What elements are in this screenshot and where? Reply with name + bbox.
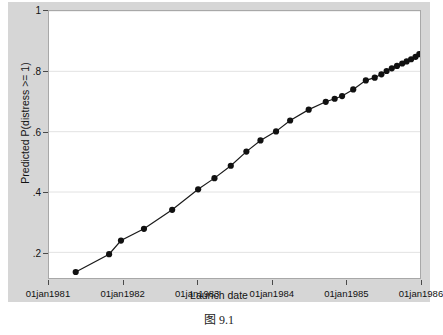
x-tick-mark bbox=[272, 280, 273, 285]
y-tick-mark bbox=[43, 132, 48, 133]
data-point bbox=[372, 75, 378, 81]
y-tick-label-.8: .8 bbox=[33, 65, 41, 76]
data-point bbox=[363, 77, 369, 83]
data-point bbox=[378, 71, 384, 77]
x-tick-mark bbox=[346, 280, 347, 285]
data-point bbox=[257, 137, 263, 143]
x-axis-title: Launch date bbox=[8, 289, 430, 301]
series-line bbox=[76, 54, 420, 272]
stata-graph-region: .2.4.6.81 Predicted P(distress >= 1) 01j… bbox=[8, 2, 430, 302]
y-tick-mark bbox=[43, 10, 48, 11]
data-point bbox=[118, 238, 124, 244]
y-tick-mark bbox=[43, 253, 48, 254]
data-point bbox=[273, 128, 279, 134]
y-tick-label-.6: .6 bbox=[33, 126, 41, 137]
x-tick-mark bbox=[421, 280, 422, 285]
chart-plot-svg bbox=[49, 11, 420, 278]
plot-area bbox=[48, 10, 421, 279]
data-point bbox=[350, 86, 356, 92]
data-point bbox=[332, 96, 338, 102]
data-point bbox=[323, 99, 329, 105]
data-point bbox=[141, 226, 147, 232]
data-point bbox=[228, 163, 234, 169]
data-point bbox=[384, 68, 390, 74]
y-axis-title: Predicted P(distress >= 1) bbox=[19, 28, 31, 218]
y-tick-label-.4: .4 bbox=[33, 187, 41, 198]
gridlines bbox=[49, 11, 420, 252]
data-point bbox=[211, 175, 217, 181]
y-tick-label-1: 1 bbox=[35, 5, 41, 16]
data-point bbox=[306, 107, 312, 113]
x-tick-mark bbox=[123, 280, 124, 285]
data-point bbox=[106, 251, 112, 257]
data-point bbox=[339, 93, 345, 99]
series-markers bbox=[73, 51, 420, 275]
figure-caption: 图 9.1 bbox=[0, 310, 438, 328]
y-tick-label-.2: .2 bbox=[33, 248, 41, 259]
data-point bbox=[73, 269, 79, 275]
data-point bbox=[243, 149, 249, 155]
data-point bbox=[195, 186, 201, 192]
data-point bbox=[287, 117, 293, 123]
y-tick-mark bbox=[43, 192, 48, 193]
y-tick-mark bbox=[43, 71, 48, 72]
x-tick-mark bbox=[197, 280, 198, 285]
x-tick-mark bbox=[48, 280, 49, 285]
data-point bbox=[169, 207, 175, 213]
